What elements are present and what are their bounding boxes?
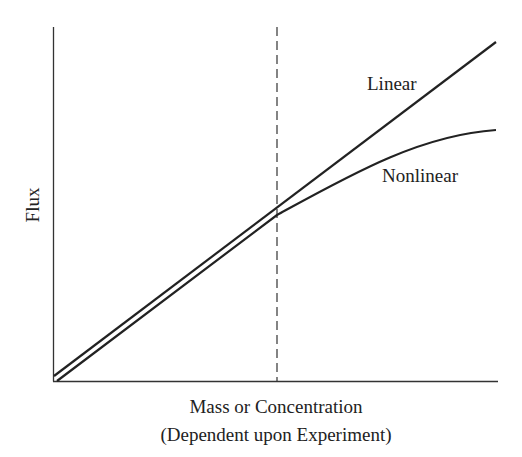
- linear-label: Linear: [367, 73, 417, 94]
- x-axis-label: Mass or Concentration: [189, 396, 363, 417]
- linear-series-line: [54, 42, 496, 376]
- x-axis-sublabel: (Dependent upon Experiment): [160, 424, 391, 446]
- y-axis-label: Flux: [22, 187, 43, 222]
- nonlinear-label: Nonlinear: [382, 165, 459, 186]
- flux-chart: Linear Nonlinear Flux Mass or Concentrat…: [0, 0, 522, 457]
